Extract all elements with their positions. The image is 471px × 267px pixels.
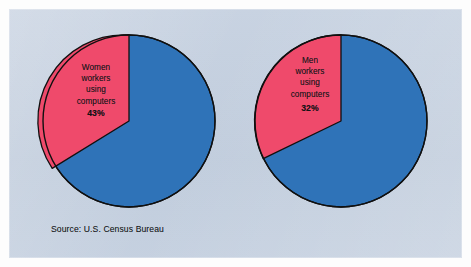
pie-women-label-line-3: using xyxy=(62,84,130,95)
pie-women-value-label: 43% xyxy=(62,108,130,118)
pie-men-label-line-1: Men xyxy=(276,55,344,66)
pie-women-label-line-1: Women xyxy=(62,62,130,73)
figure-container: Women workers using computers 43% Men wo… xyxy=(0,0,471,267)
pie-women-label-line-2: workers xyxy=(62,73,130,84)
pie-women-label-line-4: computers xyxy=(62,96,130,107)
pie-men-value-label: 32% xyxy=(276,103,344,113)
pie-men-label-line-3: using xyxy=(276,77,344,88)
pie-men-label-line-4: computers xyxy=(276,89,344,100)
pie-women-slice-label: Women workers using computers xyxy=(62,62,130,107)
pie-men-label-line-2: workers xyxy=(276,66,344,77)
source-note: Source: U.S. Census Bureau xyxy=(51,224,164,234)
pie-chart-women xyxy=(38,35,215,207)
pie-men-slice-label: Men workers using computers xyxy=(276,55,344,100)
